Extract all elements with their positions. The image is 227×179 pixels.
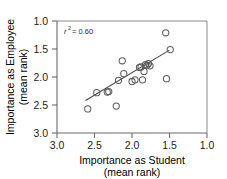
data-point: [121, 71, 127, 77]
data-point: [167, 46, 173, 52]
x-axis-subtitle: (mean rank): [104, 166, 161, 178]
scatter-plot-figure: 1.0 1.5 2.0 2.5 3.0 3.0 2.5 2.0 1.5 1.0 …: [0, 0, 227, 179]
x-tick-label: 2.0: [125, 139, 140, 151]
x-tick-label: 2.5: [87, 139, 102, 151]
data-points-layer: [85, 30, 174, 112]
y-axis-title: Importance as Employee: [4, 19, 16, 135]
data-point: [163, 76, 169, 82]
y-tick-label: 1.0: [33, 15, 48, 27]
r-squared-value: = 0.60: [72, 27, 93, 36]
x-tick-labels: 3.0 2.5 2.0 1.5 1.0: [50, 139, 215, 151]
regression-fit-line: [86, 50, 170, 100]
data-point: [139, 77, 145, 83]
y-tick-labels: 1.0 1.5 2.0 2.5 3.0: [33, 15, 48, 139]
y-tick-label: 1.5: [33, 43, 48, 55]
x-tick-label: 3.0: [50, 139, 65, 151]
plot-frame: [57, 21, 207, 133]
data-point: [119, 58, 125, 64]
x-axis-title: Importance as Student: [79, 154, 185, 166]
data-point: [85, 106, 91, 112]
r-squared-symbol: r: [64, 27, 67, 36]
r-squared-annotation: r 2 = 0.60: [64, 25, 93, 36]
y-axis-ticks: [52, 21, 57, 133]
chart-canvas: 1.0 1.5 2.0 2.5 3.0 3.0 2.5 2.0 1.5 1.0 …: [0, 0, 227, 179]
x-tick-label: 1.5: [162, 139, 177, 151]
y-axis-subtitle: (mean rank): [17, 49, 29, 106]
data-point: [141, 68, 147, 74]
y-tick-label: 3.0: [33, 127, 48, 139]
r-squared-superscript: 2: [68, 25, 71, 31]
x-axis-ticks: [57, 133, 207, 138]
y-tick-label: 2.5: [33, 99, 48, 111]
y-tick-label: 2.0: [33, 71, 48, 83]
data-point: [163, 30, 169, 36]
data-point: [113, 103, 119, 109]
x-tick-label: 1.0: [200, 139, 215, 151]
